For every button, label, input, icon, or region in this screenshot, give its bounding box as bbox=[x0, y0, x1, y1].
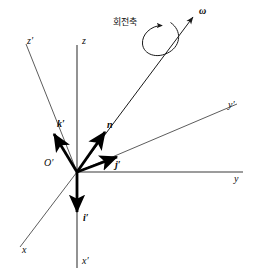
y-prime-axis-label: y′ bbox=[228, 100, 235, 110]
rotating-frame-axes-diagram: z′ z y y′ x x′ O′ k′ n j′ i′ ω 회전축 bbox=[0, 0, 255, 278]
origin-label: O′ bbox=[44, 158, 53, 168]
k-prime-vector-label: k′ bbox=[57, 119, 65, 129]
x-prime-axis-label: x′ bbox=[82, 256, 89, 266]
k-prime-vector-line bbox=[54, 134, 77, 172]
z-prime-axis-line bbox=[26, 44, 77, 172]
rotation-axis-annotation: 회전축 bbox=[113, 18, 137, 27]
z-prime-axis-label: z′ bbox=[27, 36, 33, 46]
j-prime-vector-label: j′ bbox=[115, 160, 121, 170]
z-axis-label: z bbox=[82, 36, 86, 46]
y-axis-label: y bbox=[234, 174, 238, 184]
omega-label: ω bbox=[199, 6, 206, 16]
x-axis-label: x bbox=[22, 245, 26, 255]
thin-axes-group bbox=[20, 44, 243, 268]
spin-direction-arc bbox=[142, 23, 178, 56]
i-prime-vector-label: i′ bbox=[83, 213, 89, 223]
diagram-canvas bbox=[0, 0, 255, 278]
x-axis-line bbox=[20, 172, 77, 247]
n-vector-label: n bbox=[107, 120, 113, 130]
